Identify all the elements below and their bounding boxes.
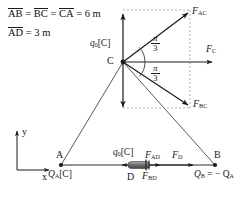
triangle-abc [61, 62, 215, 165]
force-vectors-at-c [123, 13, 212, 107]
label-vertex-c: C [107, 56, 114, 66]
label-vertex-b: B [214, 150, 221, 160]
dashed-guides [123, 10, 190, 108]
label-charge-c: q0[C] [90, 39, 110, 49]
label-axis-x: x [42, 172, 47, 182]
dot-c [121, 60, 126, 65]
label-vertex-d: D [127, 172, 134, 182]
label-axis-y: y [22, 127, 27, 137]
label-angle-lower: π 3 [151, 64, 160, 84]
label-vertex-a: A [56, 150, 63, 160]
dot-a [59, 163, 63, 167]
figure-canvas: AB = BC = CA = 6 m AD = 3 m [0, 0, 250, 201]
label-force-ad: FAD [145, 150, 160, 161]
charge-marker-d [128, 160, 150, 171]
label-force-ac: FAC [192, 6, 207, 17]
label-charge-d: q0[C] [113, 148, 133, 158]
label-angle-upper: π 3 [151, 34, 160, 54]
dot-b [213, 163, 217, 167]
label-force-bd: FBD [142, 171, 157, 182]
vertex-dots [59, 60, 217, 167]
label-force-d: FD [172, 150, 183, 161]
label-force-c: FC [206, 44, 216, 55]
label-charge-a: QA[C] [48, 170, 72, 180]
label-charge-b: QB = − QA [194, 170, 234, 180]
label-force-bc: FBC [193, 99, 207, 110]
